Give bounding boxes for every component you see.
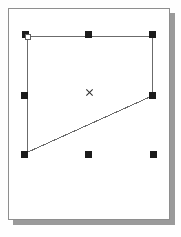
handle-middle-left[interactable]	[21, 92, 28, 99]
rotation-center-marker[interactable]	[85, 88, 94, 97]
handle-top-right[interactable]	[149, 31, 156, 38]
document-page[interactable]	[8, 8, 170, 220]
handle-bottom-center[interactable]	[85, 151, 92, 158]
vertex-anchor-point[interactable]	[25, 34, 31, 40]
drawing-canvas[interactable]	[0, 0, 181, 237]
handle-bottom-right[interactable]	[150, 151, 157, 158]
handle-bottom-left[interactable]	[21, 151, 28, 158]
handle-top-center[interactable]	[85, 31, 92, 38]
handle-middle-right[interactable]	[149, 92, 156, 99]
